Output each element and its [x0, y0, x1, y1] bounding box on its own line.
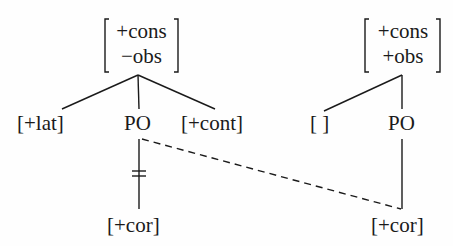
edge-left-root-po [138, 75, 139, 109]
right-root-feature-cons: +cons [366, 20, 440, 42]
right-root-feature-obs: +obs [366, 45, 440, 67]
left-root-matrix: +cons −obs [105, 18, 178, 70]
right-root-matrix: +cons +obs [366, 18, 440, 70]
feature-geometry-diagram: +cons −obs +cons +obs [+lat] PO [+cont] … [0, 0, 453, 246]
right-node-cor: [+cor] [371, 214, 424, 236]
left-node-cont: [+cont] [181, 112, 243, 134]
left-root-feature-obs: −obs [105, 45, 178, 67]
left-node-cor: [+cor] [107, 214, 160, 236]
edge-right-root-empty [324, 75, 402, 111]
spreading-dashed-link [142, 139, 401, 209]
left-root-feature-cons: +cons [105, 20, 178, 42]
right-node-empty: [ ] [310, 112, 329, 134]
edge-left-root-cont [138, 75, 215, 109]
right-node-po: PO [388, 112, 415, 134]
edge-left-root-lat [62, 75, 138, 109]
left-node-lat: [+lat] [17, 112, 64, 134]
left-node-po: PO [124, 112, 151, 134]
